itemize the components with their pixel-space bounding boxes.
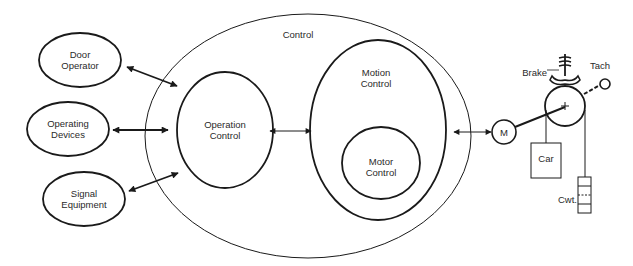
operation-control-label: Operation Control — [204, 119, 246, 141]
brake-icon — [547, 54, 580, 85]
control-label: Control — [283, 29, 314, 40]
elevator-control-diagram — [0, 0, 633, 266]
door-operator-label: Door Operator — [61, 49, 99, 71]
brake-label: Brake — [522, 67, 547, 78]
motion-control-label: Motion Control — [361, 67, 392, 89]
motor-control-line1: Motor — [366, 156, 397, 167]
motor-control-line2: Control — [366, 167, 397, 178]
counterweight-label: Cwt. — [558, 194, 577, 205]
door-operator-line1: Door — [61, 49, 99, 60]
motion-control-line1: Motion — [361, 67, 392, 78]
tach-label: Tach — [590, 60, 610, 71]
door-operator-line2: Operator — [61, 60, 99, 71]
arrow-door-operation — [127, 67, 177, 86]
control-boundary — [145, 14, 471, 258]
signal-equipment-line2: Equipment — [61, 199, 106, 210]
signal-equipment-line1: Signal — [61, 188, 106, 199]
counterweight-icon — [578, 177, 591, 213]
motor-label: M — [500, 127, 508, 138]
operating-devices-label: Operating Devices — [47, 118, 89, 140]
operating-devices-line1: Operating — [47, 118, 89, 129]
tach-link — [584, 85, 600, 94]
operation-control-line2: Control — [204, 130, 246, 141]
operating-devices-line2: Devices — [47, 129, 89, 140]
motion-control-line2: Control — [361, 78, 392, 89]
signal-equipment-label: Signal Equipment — [61, 188, 106, 210]
operation-control-line1: Operation — [204, 119, 246, 130]
car-label: Car — [538, 153, 553, 164]
tach-icon — [600, 79, 610, 89]
motor-control-label: Motor Control — [366, 156, 397, 178]
